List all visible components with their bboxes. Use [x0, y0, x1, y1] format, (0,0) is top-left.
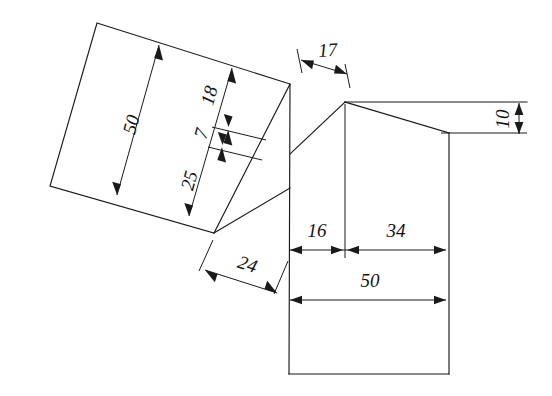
central-body-outline: [214, 84, 527, 374]
dimension-label-18: 18: [196, 83, 221, 107]
arrowhead: [434, 296, 446, 305]
arrowhead: [227, 68, 236, 84]
arrowhead: [515, 122, 524, 134]
engineering-drawing-svg: 50 18 7 25 17: [0, 0, 552, 396]
arrowhead: [290, 246, 302, 255]
dimension-50-base: 50: [290, 270, 446, 304]
technical-drawing-canvas: 50 18 7 25 17: [0, 0, 552, 396]
dimension-10-flange: 10: [492, 103, 523, 134]
dimension-50-left-panel: 50: [112, 45, 163, 195]
dimension-chain-18-7-25: 18 7 25: [176, 68, 236, 216]
arrowhead: [290, 296, 302, 305]
dimension-label-50-left: 50: [118, 112, 143, 136]
dimension-label-10: 10: [492, 109, 513, 129]
dimension-chain-16-34: 16 34: [290, 220, 446, 254]
dimension-17-top: 17: [297, 39, 350, 88]
dimension-label-7: 7: [190, 125, 213, 141]
dimension-label-25: 25: [176, 168, 201, 192]
arrowhead: [515, 103, 524, 115]
dimension-label-16: 16: [308, 220, 328, 241]
dimension-24-bevel: 24: [199, 240, 288, 294]
arrowhead: [331, 246, 343, 255]
arrowhead: [224, 114, 233, 127]
arrowhead: [347, 246, 359, 255]
arrowhead: [154, 45, 163, 61]
left-tilted-panel: [50, 23, 290, 233]
arrowhead: [434, 246, 446, 255]
dimension-label-50-base: 50: [361, 270, 381, 291]
arrowhead: [301, 60, 314, 69]
fold-step-lines: [208, 127, 266, 160]
dimension-label-34: 34: [386, 220, 407, 241]
dimension-label-17: 17: [318, 39, 340, 61]
dimension-label-24: 24: [235, 251, 260, 277]
